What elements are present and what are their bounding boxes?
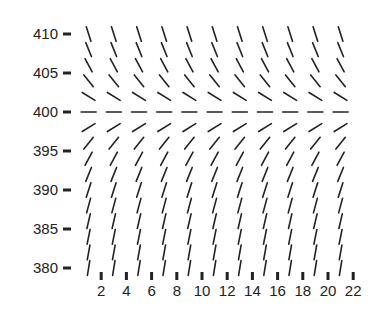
slope-segment [138,229,141,244]
slope-segment [161,59,168,72]
slope-segment [162,198,166,212]
x-tick-label: 22 [345,282,362,299]
slope-segment [237,27,242,41]
slope-segment [312,152,319,165]
x-tick-label: 4 [122,282,130,299]
slope-segment [338,27,343,41]
slope-segment [233,124,246,132]
slope-segment [85,152,92,165]
slope-segment [238,245,241,260]
slope-field-segments [81,27,348,276]
slope-segment [262,43,268,57]
slope-segment [314,245,317,260]
slope-segment [183,92,196,100]
slope-segment [187,183,192,197]
x-tick-label: 20 [320,282,337,299]
slope-segment [213,261,215,276]
slope-segment [113,261,115,276]
slope-segment [134,137,143,149]
slope-segment [313,198,317,212]
slope-segment [339,261,341,276]
slope-segment [211,152,218,165]
y-tick-label: 385 [33,220,58,237]
slope-segment [337,152,344,165]
slope-segment [260,75,269,87]
slope-segment [337,59,344,72]
slope-segment [163,245,166,260]
slope-segment [162,183,167,197]
x-axis: 246810121416182022 [97,272,362,299]
slope-segment [188,214,191,229]
slope-segment [208,124,221,132]
slope-segment [133,124,146,132]
slope-segment [137,214,140,229]
slope-segment [339,198,343,212]
slope-segment [137,198,141,212]
slope-segment [338,167,344,181]
slope-segment [262,167,268,181]
slope-segment [112,229,115,244]
slope-segment [288,183,293,197]
slope-segment [107,92,120,100]
slope-segment [111,43,117,57]
slope-segment [287,59,294,72]
y-axis: 380385390395400405410 [33,25,71,276]
slope-segment [264,229,267,244]
slope-segment [239,261,241,276]
y-tick-label: 390 [33,181,58,198]
y-tick-label: 395 [33,142,58,159]
slope-segment [263,198,267,212]
slope-segment [137,183,142,197]
y-tick-label: 410 [33,25,58,42]
slope-segment [163,214,166,229]
slope-segment [263,27,268,41]
slope-segment [185,75,194,87]
slope-segment [339,214,342,229]
slope-segment [212,27,217,41]
slope-segment [212,43,218,57]
slope-segment [208,92,221,100]
slope-segment [82,124,95,132]
slope-segment [109,137,118,149]
slope-segment [213,198,217,212]
slope-segment [309,124,322,132]
slope-segment [110,152,117,165]
slope-segment [159,137,168,149]
slope-segment [261,152,268,165]
y-tick-label: 380 [33,259,58,276]
slope-segment [159,75,168,87]
slope-segment [138,261,140,276]
x-tick-label: 8 [173,282,181,299]
slope-segment [284,124,297,132]
slope-segment [186,59,193,72]
slope-segment [210,75,219,87]
slope-segment [311,137,320,149]
slope-segment [285,137,294,149]
slope-segment [158,92,171,100]
slope-segment [162,27,167,41]
x-tick-label: 10 [194,282,211,299]
slope-segment [311,75,320,87]
slope-segment [87,245,90,260]
slope-segment [112,245,115,260]
slope-segment [188,245,191,260]
slope-segment [313,167,319,181]
slope-segment [284,92,297,100]
x-tick-label: 14 [244,282,261,299]
slope-segment [85,59,92,72]
slope-segment [187,27,192,41]
slope-segment [161,167,167,181]
slope-segment [135,59,142,72]
slope-segment [236,152,243,165]
slope-segment [137,27,142,41]
slope-segment [138,245,141,260]
x-tick-label: 18 [294,282,311,299]
slope-segment [86,183,91,197]
slope-segment [263,183,268,197]
slope-segment [111,27,116,41]
slope-segment [236,59,243,72]
slope-segment [134,75,143,87]
x-tick-label: 12 [219,282,236,299]
slope-segment [288,27,293,41]
slope-segment [261,59,268,72]
